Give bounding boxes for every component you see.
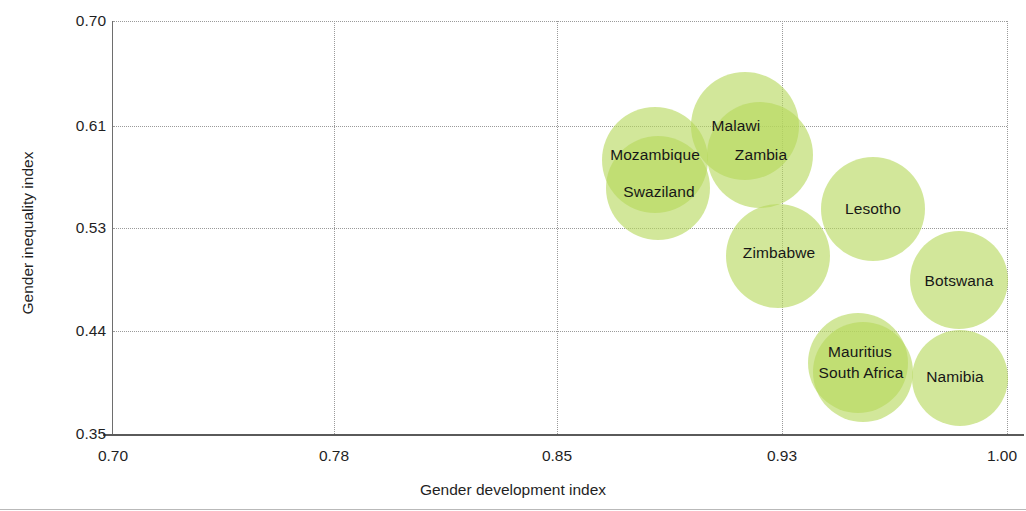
y-tick-061: 0.61 xyxy=(44,117,106,135)
y-tick-053: 0.53 xyxy=(44,219,106,237)
x-tick-078: 0.78 xyxy=(294,447,374,465)
y-tick-035: 0.35 xyxy=(44,425,106,443)
page-bottom-rule xyxy=(0,509,1026,510)
x-tick-100: 1.00 xyxy=(962,447,1026,465)
bubble-chart: Mozambique Swaziland Malawi Zambia Zimba… xyxy=(0,0,1026,511)
y-tick-labels: 0.70 0.61 0.53 0.44 0.35 xyxy=(0,0,1026,511)
x-axis-title: Gender development index xyxy=(0,481,1026,499)
x-tick-070: 0.70 xyxy=(73,447,153,465)
y-tick-070: 0.70 xyxy=(44,12,106,30)
x-tick-093: 0.93 xyxy=(742,447,822,465)
y-axis-title: Gender inequality index xyxy=(19,83,37,383)
x-tick-085: 0.85 xyxy=(517,447,597,465)
y-tick-044: 0.44 xyxy=(44,322,106,340)
